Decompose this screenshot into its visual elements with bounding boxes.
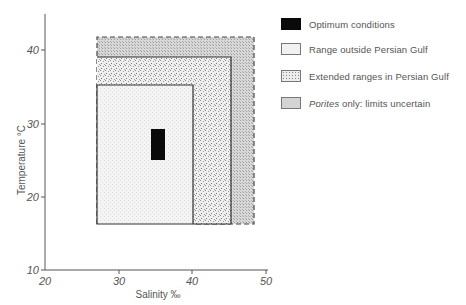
y-tick-20: 20 xyxy=(26,191,40,203)
legend-label-italic: Porites xyxy=(309,98,339,109)
x-axis-title: Salinity ‰ xyxy=(135,289,180,300)
legend-item-outside-gulf: Range outside Persian Gulf xyxy=(281,42,428,56)
legend-item-porites: Porites only: limits uncertain xyxy=(281,96,430,110)
y-axis: 40 30 20 10 Temperature °C xyxy=(16,14,45,276)
x-tick-40: 40 xyxy=(186,275,199,287)
legend-swatch-porites xyxy=(281,97,301,109)
legend-swatch-outside-gulf xyxy=(281,43,301,55)
legend-item-optimum: Optimum conditions xyxy=(281,17,395,31)
x-tick-50: 50 xyxy=(260,275,273,287)
x-axis: 20 30 40 50 Salinity ‰ xyxy=(38,270,273,300)
y-tick-30: 30 xyxy=(27,118,40,130)
region-optimum xyxy=(151,129,165,160)
x-tick-30: 30 xyxy=(113,275,126,287)
x-tick-20: 20 xyxy=(38,275,52,287)
y-tick-40: 40 xyxy=(27,44,40,56)
legend-label-rest: only: limits uncertain xyxy=(339,98,430,109)
legend-item-extended-gulf: Extended ranges in Persian Gulf xyxy=(281,69,449,83)
legend-label: Porites only: limits uncertain xyxy=(309,98,430,109)
legend-swatch-extended-gulf xyxy=(281,70,301,82)
legend-label: Extended ranges in Persian Gulf xyxy=(309,71,449,82)
legend-swatch-optimum xyxy=(281,18,301,30)
legend-label: Range outside Persian Gulf xyxy=(309,44,428,55)
legend-label: Optimum conditions xyxy=(309,19,395,30)
y-axis-title: Temperature °C xyxy=(16,125,27,195)
